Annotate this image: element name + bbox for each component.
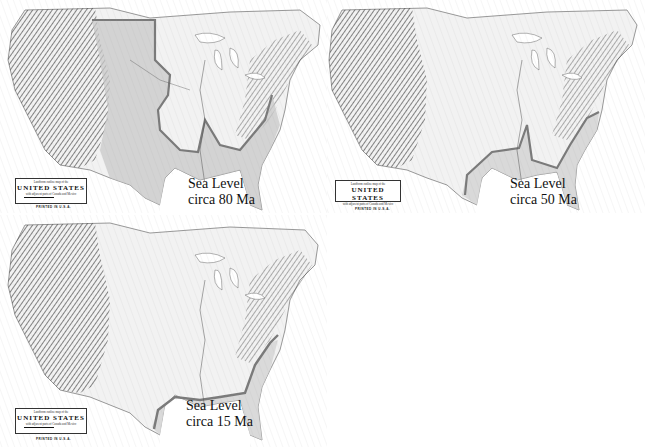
panel-caption: Sea Level circa 15 Ma — [186, 398, 253, 430]
printed-label: PRINTED IN U.S.A. — [36, 205, 71, 209]
map-panel-15ma: Sea Level circa 15 Ma Landform outline m… — [0, 215, 327, 447]
map-legend-box: Landform outline map of the UNITED STATE… — [335, 180, 401, 202]
printed-label: PRINTED IN U.S.A. — [36, 437, 71, 441]
legend-title: UNITED STATES — [16, 414, 86, 422]
caption-line-1: Sea Level — [510, 176, 577, 192]
map-legend-box: Landform outline map of the UNITED STATE… — [15, 408, 87, 434]
legend-title: UNITED STATES — [16, 184, 86, 192]
caption-line-1: Sea Level — [186, 398, 253, 414]
legend-extent: with adjacent parts of Canada and Mexico — [16, 422, 86, 426]
legend-title: UNITED STATES — [336, 186, 400, 202]
caption-line-1: Sea Level — [188, 176, 255, 192]
scale-bar — [24, 197, 54, 198]
caption-line-2: circa 15 Ma — [186, 414, 253, 430]
caption-line-2: circa 80 Ma — [188, 192, 255, 208]
printed-label: PRINTED IN U.S.A. — [355, 207, 390, 211]
map-panel-80ma: Sea Level circa 80 Ma Landform outline m… — [0, 0, 327, 213]
panel-caption: Sea Level circa 80 Ma — [188, 176, 255, 208]
panel-caption: Sea Level circa 50 Ma — [510, 176, 577, 208]
map-legend-box: Landform outline map of the UNITED STATE… — [15, 178, 87, 204]
legend-extent: with adjacent parts of Canada and Mexico — [336, 202, 400, 206]
legend-extent: with adjacent parts of Canada and Mexico — [16, 192, 86, 196]
scale-bar — [24, 427, 54, 428]
map-panel-50ma: Sea Level circa 50 Ma Landform outline m… — [327, 0, 645, 213]
caption-line-2: circa 50 Ma — [510, 192, 577, 208]
